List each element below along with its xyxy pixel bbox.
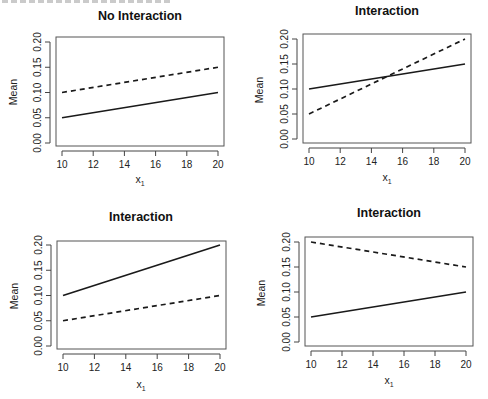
y-tick-label: 0.20 xyxy=(281,232,292,252)
y-axis: 0.000.050.100.150.20 xyxy=(32,32,50,153)
x-tick-label: 16 xyxy=(397,156,409,167)
series-line-solid xyxy=(309,64,465,89)
x-tick-label: 10 xyxy=(305,359,317,370)
x-tick-label: 18 xyxy=(181,159,193,170)
y-tick-label: 0.10 xyxy=(33,285,44,305)
series-line-dashed xyxy=(62,67,218,92)
y-tick-label: 0.20 xyxy=(32,32,43,52)
series-line-dashed xyxy=(63,296,220,321)
plot-panel-2: Interaction0.000.050.100.150.20101214161… xyxy=(253,4,471,185)
x-tick-label: 20 xyxy=(459,156,471,167)
plot-frame xyxy=(57,241,226,349)
series-line-solid xyxy=(62,93,218,118)
y-axis-label: Mean xyxy=(253,77,265,103)
y-tick-label: 0.05 xyxy=(281,307,292,327)
x-tick-label: 14 xyxy=(366,156,378,167)
y-tick-label: 0.15 xyxy=(281,257,292,277)
y-axis-label: Mean xyxy=(255,280,267,306)
y-tick-label: 0.00 xyxy=(32,133,43,153)
x-tick-label: 20 xyxy=(214,362,226,373)
series-line-dashed xyxy=(311,242,466,267)
x-tick-label: 12 xyxy=(336,359,348,370)
x-tick-label: 14 xyxy=(119,159,131,170)
y-tick-label: 0.05 xyxy=(33,311,44,331)
y-tick-label: 0.10 xyxy=(32,82,43,102)
x-tick-label: 12 xyxy=(88,159,100,170)
y-tick-label: 0.00 xyxy=(281,332,292,352)
x-tick-label: 16 xyxy=(398,359,410,370)
plot-frame xyxy=(56,37,224,146)
y-tick-label: 0.15 xyxy=(32,57,43,77)
x-tick-label: 10 xyxy=(303,156,315,167)
x-tick-label: 20 xyxy=(212,159,224,170)
x-axis-label: x1 xyxy=(135,173,144,187)
x-tick-label: 10 xyxy=(56,159,68,170)
plot-panel-1: No Interaction0.000.050.100.150.20101214… xyxy=(7,9,224,187)
x-tick-label: 12 xyxy=(335,156,347,167)
x-axis-label: x1 xyxy=(382,171,391,185)
x-axis: 101214161820 xyxy=(56,151,224,170)
x-tick-label: 10 xyxy=(57,362,69,373)
y-tick-label: 0.15 xyxy=(279,54,290,74)
x-tick-label: 16 xyxy=(150,159,162,170)
y-tick-label: 0.15 xyxy=(33,260,44,280)
x-axis-label: x1 xyxy=(384,374,393,388)
x-axis: 101214161820 xyxy=(57,354,226,373)
x-axis: 101214161820 xyxy=(303,148,471,167)
plot-title: No Interaction xyxy=(98,9,182,23)
y-tick-label: 0.05 xyxy=(279,104,290,124)
y-tick-label: 0.00 xyxy=(33,336,44,356)
y-axis: 0.000.050.100.150.20 xyxy=(279,29,297,149)
x-axis-label: x1 xyxy=(136,378,145,392)
x-tick-label: 18 xyxy=(183,362,195,373)
x-tick-label: 12 xyxy=(89,362,101,373)
y-axis: 0.000.050.100.150.20 xyxy=(33,235,51,356)
x-tick-label: 20 xyxy=(460,359,472,370)
y-axis-label: Mean xyxy=(8,283,20,309)
y-tick-label: 0.20 xyxy=(33,235,44,255)
y-tick-label: 0.05 xyxy=(32,108,43,128)
y-tick-label: 0.00 xyxy=(279,129,290,149)
plot-title: Interaction xyxy=(357,206,421,220)
figure-2x2-line-plots: No Interaction0.000.050.100.150.20101214… xyxy=(0,0,488,399)
plot-frame xyxy=(305,237,473,346)
x-tick-label: 14 xyxy=(367,359,379,370)
plot-title: Interaction xyxy=(109,210,173,224)
x-axis: 101214161820 xyxy=(305,351,472,370)
y-tick-label: 0.10 xyxy=(279,79,290,99)
plot-frame xyxy=(303,34,471,143)
plot-panel-3: Interaction0.000.050.100.150.20101214161… xyxy=(8,210,226,392)
x-tick-label: 16 xyxy=(152,362,164,373)
series-line-solid xyxy=(63,245,220,296)
plot-title: Interaction xyxy=(355,4,419,18)
y-axis-label: Mean xyxy=(7,79,19,105)
y-tick-label: 0.20 xyxy=(279,29,290,49)
y-tick-label: 0.10 xyxy=(281,282,292,302)
x-tick-label: 18 xyxy=(428,156,440,167)
plot-panel-4: Interaction0.000.050.100.150.20101214161… xyxy=(255,206,473,388)
series-line-solid xyxy=(311,292,466,317)
x-tick-label: 14 xyxy=(120,362,132,373)
x-tick-label: 18 xyxy=(429,359,441,370)
y-axis: 0.000.050.100.150.20 xyxy=(281,232,299,352)
